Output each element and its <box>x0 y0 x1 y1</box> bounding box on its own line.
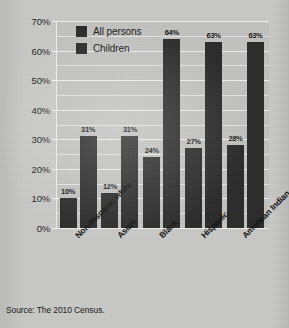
bar <box>60 198 77 228</box>
legend-item-children: Children <box>76 41 141 56</box>
bar-value-label: 63% <box>241 31 269 40</box>
bar-value-label: 63% <box>200 31 228 40</box>
bar-value-label: 31% <box>74 125 102 134</box>
y-axis-tick-label: 10% <box>6 193 50 204</box>
bar <box>247 42 264 228</box>
legend-label: Children <box>93 43 129 54</box>
chart-legend: All persons Children <box>76 24 141 58</box>
source-note: Source: The 2010 Census. <box>6 305 105 315</box>
bar-value-label: 10% <box>54 187 82 196</box>
bar-value-label: 64% <box>158 28 186 37</box>
y-axis-tick-label: 50% <box>6 75 50 86</box>
bar <box>163 39 180 228</box>
gridline <box>57 21 269 22</box>
bar <box>205 42 222 228</box>
bar-value-label: 31% <box>116 125 144 134</box>
y-axis-tick-label: 40% <box>6 104 50 115</box>
y-axis-tick-label: 20% <box>6 163 50 174</box>
legend-item-all-persons: All persons <box>76 24 141 39</box>
bar <box>143 157 160 228</box>
chart-figure: 0%10%20%30%40%50%60%70% 10%31%12%31%24%6… <box>0 0 289 328</box>
y-axis-tick-label: 60% <box>6 45 50 56</box>
legend-label: All persons <box>93 26 141 37</box>
bar-value-label: 28% <box>221 134 249 143</box>
bar <box>185 148 202 228</box>
bar-value-label: 24% <box>138 146 166 155</box>
y-axis-tick-label: 30% <box>6 134 50 145</box>
y-axis-tick-label: 0% <box>6 223 50 234</box>
bar-value-label: 27% <box>180 137 208 146</box>
legend-swatch-icon <box>76 26 87 37</box>
legend-swatch-icon <box>76 43 87 54</box>
y-axis-tick-label: 70% <box>6 16 50 27</box>
